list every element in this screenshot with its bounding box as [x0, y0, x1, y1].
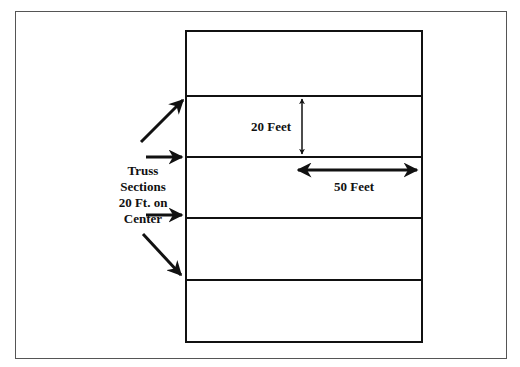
truss-label-line-2: Sections — [110, 179, 176, 195]
span-dimension-label: 50 Feet — [334, 179, 374, 195]
arrow-up-diagonal-icon — [141, 100, 183, 142]
truss-lines — [186, 96, 422, 280]
truss-label-line-1: Truss — [110, 163, 176, 179]
truss-label-line-4: Center — [110, 211, 176, 227]
spacing-dimension-label: 20 Feet — [251, 119, 291, 135]
building-outline — [186, 31, 422, 342]
truss-diagram — [0, 0, 520, 367]
dimension-arrows — [298, 99, 417, 170]
arrow-down-diagonal-icon — [143, 234, 181, 275]
truss-sections-label: Truss Sections 20 Ft. on Center — [110, 163, 176, 227]
truss-label-line-3: 20 Ft. on — [110, 195, 176, 211]
